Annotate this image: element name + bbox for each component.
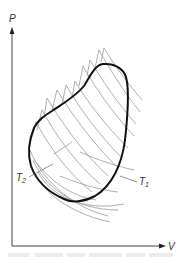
p-axis-label: P: [9, 13, 16, 24]
t2-label: T2: [16, 172, 26, 184]
t1-label: T1: [139, 176, 149, 188]
v-axis-label: V: [168, 241, 176, 252]
v-axis-arrow-icon: [159, 244, 166, 249]
caption-placeholder: [8, 253, 173, 257]
t1-leader-line: [120, 176, 137, 182]
p-axis-arrow-icon: [10, 27, 15, 34]
pv-diagram: P V: [0, 0, 181, 263]
axes: P V: [9, 13, 176, 252]
figure-caption: [8, 253, 173, 259]
